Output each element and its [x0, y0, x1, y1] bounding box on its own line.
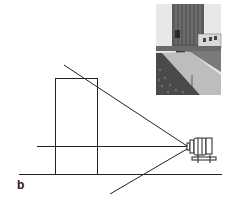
perspective-diagram — [0, 0, 229, 201]
figure-label: b — [17, 178, 24, 192]
building-photo — [156, 4, 221, 95]
lower-view-ray — [110, 149, 187, 194]
camera-icon — [187, 138, 216, 163]
building-outline — [56, 79, 98, 175]
